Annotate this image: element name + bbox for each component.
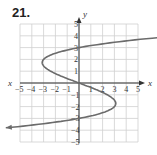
svg-text:−2: −2 bbox=[50, 85, 59, 94]
svg-text:−1: −1 bbox=[71, 91, 80, 100]
svg-text:5: 5 bbox=[74, 20, 78, 29]
svg-text:−4: −4 bbox=[71, 126, 80, 135]
svg-text:−2: −2 bbox=[71, 103, 80, 112]
svg-text:−5: −5 bbox=[71, 138, 80, 147]
svg-text:−1: −1 bbox=[62, 85, 71, 94]
svg-text:−3: −3 bbox=[39, 85, 48, 94]
curve bbox=[6, 37, 157, 128]
x-axis-label: x bbox=[147, 78, 152, 88]
graph: x y x −5−4−3−2−112345 54321−1−2−3−4−5 bbox=[0, 0, 157, 155]
svg-text:4: 4 bbox=[74, 32, 78, 41]
x-axis-label-left: x bbox=[7, 78, 12, 88]
svg-text:−5: −5 bbox=[15, 85, 24, 94]
y-axis-label: y bbox=[82, 9, 87, 19]
svg-text:1: 1 bbox=[74, 67, 78, 76]
svg-text:5: 5 bbox=[136, 85, 140, 94]
svg-text:3: 3 bbox=[112, 85, 116, 94]
svg-text:4: 4 bbox=[124, 85, 128, 94]
svg-text:2: 2 bbox=[74, 55, 78, 64]
svg-text:−4: −4 bbox=[27, 85, 36, 94]
